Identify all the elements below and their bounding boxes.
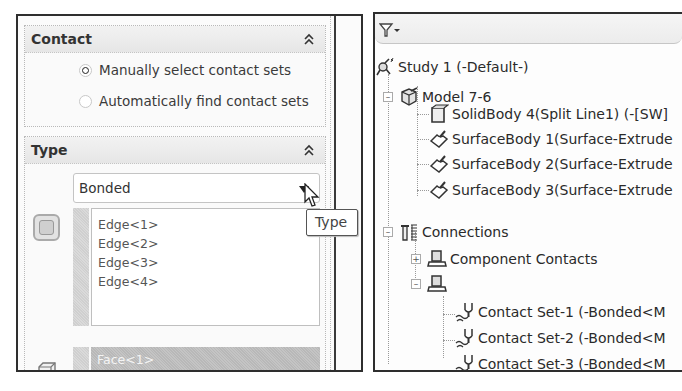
tree-item-body[interactable]: SurfaceBody 2(Surface-Extrude <box>429 153 673 175</box>
tree-line <box>417 139 429 140</box>
type-group-title: Type <box>31 142 68 158</box>
tree-item-contact-sets[interactable] <box>427 273 450 295</box>
radio-button[interactable] <box>79 95 92 108</box>
tree-line <box>443 314 455 315</box>
tree-item-component-contacts[interactable]: Component Contacts <box>427 248 598 270</box>
selection-color-bar <box>73 208 89 326</box>
tree-item-connections[interactable]: Connections <box>399 221 509 243</box>
type-group: Type Bonded Edge<1> Edge<2> Edge<3> Edge… <box>24 136 326 372</box>
dropdown-value: Bonded <box>79 180 131 196</box>
study-icon <box>375 57 395 77</box>
mouse-cursor-icon <box>304 183 322 209</box>
tree-line <box>388 74 389 364</box>
set2-selection-list[interactable]: Face<1> <box>91 347 320 372</box>
tree-label: Component Contacts <box>450 251 598 267</box>
surface-body-icon <box>429 129 449 149</box>
edge-selection-icon <box>33 214 60 241</box>
collapse-toggle-icon[interactable]: – <box>383 92 393 102</box>
simulation-study-tree: Study 1 (-Default-) – Model 7-6 SolidBod… <box>373 12 682 372</box>
tree-item-contact-set[interactable]: Contact Set-1 (-Bonded<M <box>455 301 666 323</box>
tree-label: Contact Set-3 (-Bonded<M <box>478 356 666 372</box>
tree-item-body[interactable]: SurfaceBody 3(Surface-Extrude <box>429 179 673 201</box>
surface-body-icon <box>429 180 449 200</box>
tree-label: SolidBody 4(Split Line1) (-[SW] <box>452 106 668 122</box>
collapse-toggle-icon[interactable]: – <box>383 227 393 237</box>
type-group-header[interactable]: Type <box>25 137 325 164</box>
face-selection-icon <box>37 361 57 372</box>
tree-line <box>417 164 429 165</box>
tree-item-contact-set[interactable]: Contact Set-2 (-Bonded<M <box>455 327 666 349</box>
tree-label: Contact Set-2 (-Bonded<M <box>478 330 666 346</box>
filter-icon[interactable] <box>379 22 401 38</box>
list-item[interactable]: Face<1> <box>91 347 320 370</box>
contact-group-header[interactable]: Contact <box>25 26 325 53</box>
contact-type-dropdown[interactable]: Bonded <box>73 173 320 203</box>
tree-item-study[interactable]: Study 1 (-Default-) <box>375 56 528 78</box>
component-contacts-icon <box>427 249 447 269</box>
expand-toggle-icon[interactable]: + <box>411 254 421 264</box>
solid-body-icon <box>429 104 449 124</box>
radio-label: Manually select contact sets <box>99 62 291 78</box>
radio-button-checked[interactable] <box>79 64 92 77</box>
list-item[interactable]: Edge<3> <box>92 253 319 272</box>
tree-line <box>417 190 429 191</box>
contact-set-icon <box>455 302 475 322</box>
tree-label: Contact Set-1 (-Bonded<M <box>478 304 666 320</box>
collapse-toggle-icon[interactable]: – <box>411 279 421 289</box>
selection-color-bar <box>73 347 89 372</box>
radio-manual-select[interactable]: Manually select contact sets <box>79 62 291 78</box>
tree-line <box>417 114 429 115</box>
tree-item-contact-set[interactable]: Contact Set-3 (-Bonded<M <box>455 353 666 372</box>
list-item[interactable]: Edge<4> <box>92 272 319 291</box>
contact-group-title: Contact <box>31 31 92 47</box>
collapse-chevron-icon[interactable] <box>303 143 315 157</box>
panel-divider <box>334 16 336 370</box>
tree-item-body[interactable]: SolidBody 4(Split Line1) (-[SW] <box>429 103 668 125</box>
tree-label: Connections <box>422 224 509 240</box>
scroll-track <box>330 16 331 370</box>
model-part-icon <box>399 87 419 107</box>
tree-line <box>443 340 455 341</box>
list-item[interactable]: Edge<1> <box>92 215 319 234</box>
tree-item-body[interactable]: SurfaceBody 1(Surface-Extrude <box>429 128 673 150</box>
tooltip: Type <box>306 209 358 236</box>
set1-selection-list[interactable]: Edge<1> Edge<2> Edge<3> Edge<4> <box>91 208 320 326</box>
tree-filter-bar <box>375 14 682 44</box>
tree-label: SurfaceBody 1(Surface-Extrude <box>452 131 673 147</box>
contact-set-icon <box>455 354 475 372</box>
collapse-chevron-icon[interactable] <box>303 32 315 46</box>
radio-label: Automatically find contact sets <box>99 93 309 109</box>
contact-sets-icon <box>427 274 447 294</box>
contact-group: Contact Manually select contact sets Aut… <box>24 25 326 127</box>
list-item[interactable]: Edge<2> <box>92 234 319 253</box>
tree-label: SurfaceBody 2(Surface-Extrude <box>452 156 673 172</box>
radio-auto-find[interactable]: Automatically find contact sets <box>79 93 309 109</box>
contact-set-icon <box>455 328 475 348</box>
surface-body-icon <box>429 154 449 174</box>
tree-label: SurfaceBody 3(Surface-Extrude <box>452 182 673 198</box>
connections-bolt-icon <box>399 222 419 242</box>
tree-label: Study 1 (-Default-) <box>398 59 528 75</box>
tree-line <box>443 296 444 358</box>
